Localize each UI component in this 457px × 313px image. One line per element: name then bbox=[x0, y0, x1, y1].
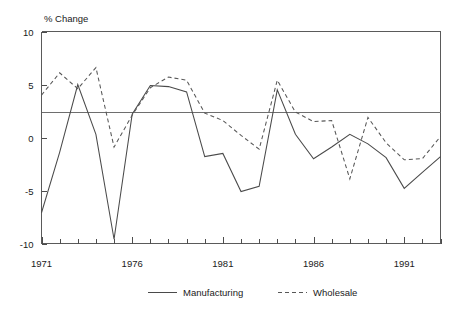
y-axis-title: % Change bbox=[44, 13, 88, 24]
y-tick-label: -5 bbox=[25, 186, 33, 197]
x-tick-label: 1981 bbox=[212, 258, 233, 269]
legend-label-wholesale: Wholesale bbox=[313, 287, 357, 298]
y-tick-label: 10 bbox=[23, 27, 34, 38]
x-tick-label: 1991 bbox=[394, 258, 415, 269]
percent-change-line-chart: % Change 1050-5-10 19711976198119861991 … bbox=[0, 0, 457, 313]
y-tick-label: -10 bbox=[20, 239, 34, 250]
legend-label-manufacturing: Manufacturing bbox=[183, 287, 243, 298]
chart-container: % Change 1050-5-10 19711976198119861991 … bbox=[0, 0, 457, 313]
y-tick-label: 0 bbox=[28, 133, 33, 144]
y-tick-label: 5 bbox=[28, 80, 33, 91]
x-tick-label: 1976 bbox=[122, 258, 143, 269]
x-tick-label: 1971 bbox=[31, 258, 52, 269]
x-tick-label: 1986 bbox=[303, 258, 324, 269]
